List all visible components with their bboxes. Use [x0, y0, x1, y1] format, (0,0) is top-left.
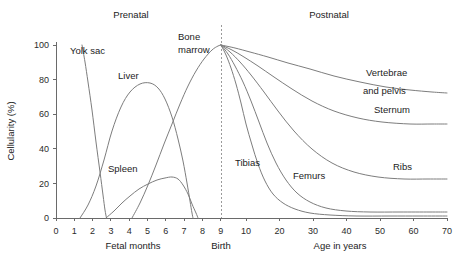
- x-tick-label: 6: [163, 226, 168, 236]
- x-axis-tick-labels: 012345678910203040506070: [53, 226, 452, 236]
- series-label-spleen: Spleen: [108, 163, 138, 174]
- curve-spleen: [106, 177, 198, 218]
- y-tick-label: 100: [34, 40, 49, 50]
- x-tick-label: 60: [408, 226, 418, 236]
- y-axis-group: 020406080100 Cellularity (%): [5, 40, 56, 223]
- x-tick-label: 7: [182, 226, 187, 236]
- series-label-yolk-sac: Yolk sac: [70, 45, 105, 56]
- x-tick-label: 20: [274, 226, 284, 236]
- x-tick-label: 2: [90, 226, 95, 236]
- series-label-ribs: Ribs: [393, 161, 412, 172]
- x-tick-label: 8: [200, 226, 205, 236]
- x-axis-title-age-in-years: Age in years: [314, 240, 367, 251]
- series-label-tibias: Tibias: [235, 157, 260, 168]
- period-label-0: Prenatal: [113, 9, 148, 20]
- y-axis-title: Cellularity (%): [5, 101, 16, 160]
- series-label-vertebrae-and-pelvis-line2: and pelvis: [363, 85, 406, 96]
- period-label-1: Postnatal: [309, 9, 349, 20]
- x-tick-label: 10: [241, 226, 251, 236]
- y-tick-label: 20: [39, 179, 49, 189]
- y-tick-label: 0: [44, 213, 49, 223]
- y-tick-label: 40: [39, 144, 49, 154]
- curve-tibias: [221, 45, 447, 216]
- y-axis-tick-labels: 020406080100: [34, 40, 49, 223]
- x-tick-label: 1: [72, 226, 77, 236]
- x-axis-group: 012345678910203040506070 Fetal months Ag…: [53, 218, 452, 251]
- x-tick-label: 4: [127, 226, 132, 236]
- series-label-vertebrae-and-pelvis: Vertebrae: [366, 67, 407, 78]
- period-labels-group: PrenatalPostnatal: [113, 9, 349, 20]
- curve-femurs: [221, 45, 447, 212]
- series-label-bone-marrow-line2: marrow: [178, 44, 210, 55]
- x-tick-label: 40: [341, 226, 351, 236]
- y-tick-label: 80: [39, 75, 49, 85]
- series-label-sternum: Sternum: [374, 104, 410, 115]
- y-tick-label: 60: [39, 109, 49, 119]
- hematopoiesis-cellularity-line-chart: 020406080100 Cellularity (%) 01234567891…: [0, 0, 459, 259]
- x-tick-label: 30: [308, 226, 318, 236]
- curve-vertebrae-and-pelvis: [221, 45, 447, 93]
- x-tick-label: 0: [53, 226, 58, 236]
- x-axis-title-fetal-months: Fetal months: [106, 240, 161, 251]
- birth-label: Birth: [211, 240, 231, 251]
- x-tick-label: 5: [145, 226, 150, 236]
- x-tick-label: 9: [218, 226, 223, 236]
- series-label-liver: Liver: [118, 70, 139, 81]
- x-tick-label: 70: [442, 226, 452, 236]
- series-label-bone-marrow: Bone: [178, 31, 200, 42]
- cellularity-chart-figure: 020406080100 Cellularity (%) 01234567891…: [0, 0, 459, 259]
- x-tick-label: 3: [108, 226, 113, 236]
- series-label-femurs: Femurs: [293, 170, 325, 181]
- x-tick-label: 50: [375, 226, 385, 236]
